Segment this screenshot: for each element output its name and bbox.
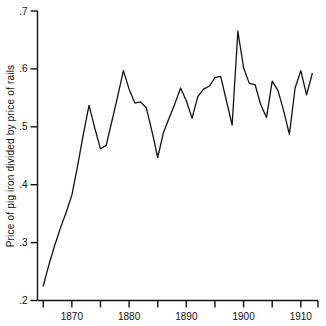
chart-figure: .2.3.4.5.6.7 18701880189019001910 Price … bbox=[0, 0, 326, 326]
y-tick-label: .6 bbox=[19, 63, 28, 74]
y-axis-title: Price of pig iron divided by price of ra… bbox=[5, 65, 16, 248]
x-tick-label: 1900 bbox=[232, 311, 255, 322]
y-axis-tick-labels: .2.3.4.5.6.7 bbox=[19, 6, 28, 307]
x-tick-label: 1910 bbox=[290, 311, 313, 322]
x-tick-label: 1870 bbox=[61, 311, 84, 322]
line-chart: .2.3.4.5.6.7 18701880189019001910 Price … bbox=[0, 0, 326, 326]
x-axis-ticks bbox=[43, 301, 318, 308]
x-tick-label: 1880 bbox=[118, 311, 141, 322]
y-tick-label: .7 bbox=[19, 6, 28, 17]
x-tick-label: 1890 bbox=[175, 311, 198, 322]
y-tick-label: .3 bbox=[19, 237, 28, 248]
y-tick-label: .5 bbox=[19, 121, 28, 132]
y-axis-ticks bbox=[31, 11, 38, 301]
x-axis-tick-labels: 18701880189019001910 bbox=[61, 311, 313, 322]
data-series-line bbox=[43, 31, 312, 286]
y-tick-label: .4 bbox=[19, 179, 28, 190]
y-tick-label: .2 bbox=[19, 295, 28, 306]
